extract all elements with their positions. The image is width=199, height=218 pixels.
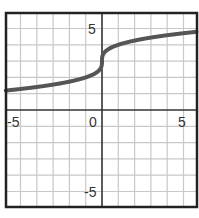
y-tick-label-5: 5 [88, 21, 96, 37]
x-tick-label-5: 5 [178, 114, 186, 130]
x-tick-label-0: 0 [89, 114, 97, 130]
y-tick-label-neg5: -5 [84, 184, 97, 200]
x-tick-label-neg5: -5 [7, 114, 20, 130]
axes [6, 13, 197, 207]
function-plot: -5 0 5 5 -5 [0, 0, 199, 218]
